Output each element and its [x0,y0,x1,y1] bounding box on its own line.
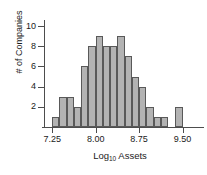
histogram-bar [52,117,59,127]
y-tick-label: 10 [16,22,36,31]
histogram-bar [154,117,161,127]
histogram-bar [117,36,124,127]
x-tick-mark [183,128,184,133]
histogram-bar [125,56,132,127]
histogram-bar [110,46,117,127]
histogram-bars [45,20,197,127]
x-tick-label: 9.50 [163,135,203,144]
histogram-figure: # of Companies 246810 7.258.008.759.50 L… [0,0,207,175]
y-tick-mark [38,107,44,108]
x-axis-label-subscript: 10 [109,155,116,162]
y-tick-label: 6 [16,62,36,71]
histogram-bar [67,97,74,127]
histogram-bar [161,117,168,127]
x-axis-label-base: Log [93,150,109,161]
x-axis-label: Log10 Assets [40,150,200,161]
histogram-bar [139,87,146,127]
y-tick-label: 4 [16,82,36,91]
x-tick-mark [96,128,97,133]
histogram-bar [88,46,95,127]
y-tick-mark [38,46,44,47]
x-tick-label: 7.25 [32,135,72,144]
histogram-bar [96,36,103,127]
histogram-bar [132,77,139,127]
x-tick-label: 8.75 [119,135,159,144]
y-tick-mark [38,66,44,67]
histogram-bar [146,107,153,127]
histogram-bar [74,107,81,127]
histogram-bar [103,46,110,127]
y-tick-label: 2 [16,102,36,111]
y-tick-mark [38,87,44,88]
y-tick-label: 8 [16,42,36,51]
histogram-bar [81,66,88,127]
y-tick-mark [38,26,44,27]
x-tick-label: 8.00 [76,135,116,144]
x-axis-line [42,127,204,128]
histogram-bar [175,107,182,127]
x-tick-mark [52,128,53,133]
x-tick-mark [139,128,140,133]
x-axis-label-rest: Assets [116,150,147,161]
histogram-bar [59,97,66,127]
